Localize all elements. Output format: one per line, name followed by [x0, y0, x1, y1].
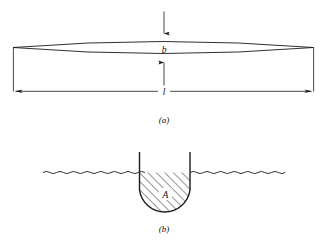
waterline-left: [43, 171, 145, 173]
panel-b-group: A (b): [43, 152, 285, 234]
panel-b-caption: (b): [159, 224, 170, 234]
panel-a-caption: (a): [159, 115, 170, 125]
area-label-group: A: [159, 188, 172, 200]
figure-container: b l (a): [0, 0, 327, 244]
waterline-right: [190, 171, 285, 173]
beam-label: b: [162, 45, 167, 55]
technical-diagram: b l (a): [0, 0, 327, 244]
panel-a-group: b l (a): [13, 12, 314, 126]
area-label: A: [162, 190, 169, 200]
length-label: l: [163, 87, 166, 97]
